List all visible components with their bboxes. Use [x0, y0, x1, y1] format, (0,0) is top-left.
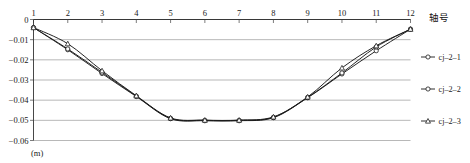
- x-tick-label: 2: [66, 8, 70, 18]
- x-tick-label: 7: [237, 8, 241, 18]
- y-tick-label: 0: [24, 15, 28, 25]
- data-point-marker: [426, 55, 430, 59]
- legend-label: cj–2–2: [439, 85, 461, 94]
- x-tick-label: 8: [271, 8, 275, 18]
- data-point-marker: [340, 71, 344, 75]
- y-tick-label: −0.01: [9, 35, 29, 45]
- x-tick-label: 11: [372, 8, 380, 18]
- settlement-chart: 123456789101112 0−0.01−0.02−0.03−0.04−0.…: [0, 0, 470, 163]
- y-tick-label: −0.04: [9, 95, 29, 105]
- y-tick-label: −0.05: [9, 115, 29, 125]
- x-tick-label: 3: [100, 8, 104, 18]
- chart-background: [0, 0, 470, 163]
- x-tick-label: 12: [406, 8, 415, 18]
- legend-label: cj–2–1: [439, 53, 461, 62]
- y-tick-label: −0.02: [9, 55, 29, 65]
- data-point-marker: [426, 87, 430, 91]
- x-tick-label: 6: [203, 8, 207, 18]
- x-tick-label: 5: [168, 8, 172, 18]
- x-tick-label: 10: [338, 8, 347, 18]
- x-axis-title: 轴号: [429, 12, 449, 23]
- y-axis-unit-label: (m): [31, 148, 43, 158]
- y-tick-label: −0.03: [9, 75, 29, 85]
- data-point-marker: [66, 47, 70, 51]
- chart-svg: 123456789101112 0−0.01−0.02−0.03−0.04−0.…: [0, 0, 470, 163]
- y-tick-label: −0.06: [9, 136, 29, 146]
- x-tick-label: 4: [134, 8, 139, 18]
- x-tick-label: 9: [306, 8, 310, 18]
- x-tick-label: 1: [31, 8, 35, 18]
- legend-label: cj–2–3: [439, 117, 461, 126]
